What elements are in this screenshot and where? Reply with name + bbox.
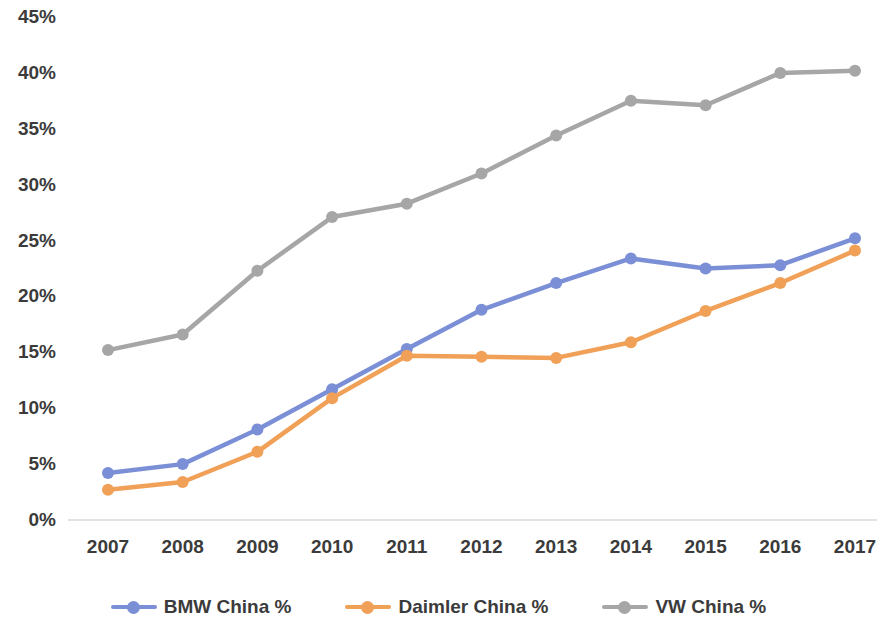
data-point[interactable] [177,328,189,340]
data-point[interactable] [550,352,562,364]
plot-svg [68,0,877,530]
plot-area [68,0,877,530]
x-axis-tick-label: 2013 [535,536,577,558]
legend-label: VW China % [655,596,766,618]
data-point[interactable] [700,99,712,111]
data-point[interactable] [102,467,114,479]
data-point[interactable] [849,245,861,257]
data-point[interactable] [849,232,861,244]
y-axis: 0%5%10%15%20%25%30%35%40%45% [0,0,68,540]
x-axis-tick-label: 2010 [311,536,353,558]
data-point[interactable] [849,65,861,77]
data-point[interactable] [326,392,338,404]
chart-legend: BMW China %Daimler China %VW China % [0,590,877,623]
legend-dot [127,601,140,614]
line-marker-icon [602,599,648,615]
data-point[interactable] [251,446,263,458]
x-axis-tick-label: 2009 [236,536,278,558]
data-point[interactable] [102,484,114,496]
x-axis-tick-label: 2015 [684,536,726,558]
data-point[interactable] [251,265,263,277]
data-point[interactable] [774,67,786,79]
data-point[interactable] [700,263,712,275]
data-point[interactable] [177,458,189,470]
data-point[interactable] [476,351,488,363]
x-axis-tick-label: 2012 [460,536,502,558]
y-axis-tick-label: 40% [18,62,56,84]
data-point[interactable] [102,344,114,356]
legend-item-vw[interactable]: VW China % [602,596,766,618]
y-axis-tick-label: 15% [18,341,56,363]
y-axis-tick-label: 5% [29,453,56,475]
data-point[interactable] [476,167,488,179]
data-point[interactable] [326,211,338,223]
data-point[interactable] [625,95,637,107]
data-point[interactable] [177,476,189,488]
y-axis-tick-label: 30% [18,174,56,196]
data-point[interactable] [774,259,786,271]
data-point[interactable] [625,336,637,348]
data-point[interactable] [550,129,562,141]
line-marker-icon [111,599,157,615]
data-point[interactable] [625,252,637,264]
data-point[interactable] [476,304,488,316]
data-point[interactable] [251,423,263,435]
data-point[interactable] [774,277,786,289]
x-axis-tick-label: 2016 [759,536,801,558]
series-line [108,251,855,490]
y-axis-tick-label: 25% [18,230,56,252]
data-point[interactable] [700,305,712,317]
y-axis-tick-label: 10% [18,397,56,419]
data-point[interactable] [401,350,413,362]
line-marker-icon [345,599,391,615]
x-axis-tick-label: 2008 [162,536,204,558]
legend-dot [361,601,374,614]
y-axis-tick-label: 35% [18,118,56,140]
series-daimler [102,245,861,496]
x-axis-tick-label: 2011 [386,536,427,558]
y-axis-tick-label: 20% [18,285,56,307]
x-axis: 2007200820092010201120122013201420152016… [68,536,877,570]
legend-item-daimler[interactable]: Daimler China % [345,596,548,618]
x-axis-tick-label: 2014 [610,536,652,558]
y-axis-tick-label: 45% [18,6,56,28]
data-point[interactable] [401,198,413,210]
y-axis-tick-label: 0% [29,509,56,531]
legend-dot [618,601,631,614]
x-axis-tick-label: 2007 [87,536,129,558]
legend-item-bmw[interactable]: BMW China % [111,596,292,618]
legend-label: Daimler China % [398,596,548,618]
x-axis-tick-label: 2017 [834,536,876,558]
data-point[interactable] [550,277,562,289]
line-chart: 0%5%10%15%20%25%30%35%40%45% 20072008200… [0,0,877,623]
legend-label: BMW China % [164,596,292,618]
